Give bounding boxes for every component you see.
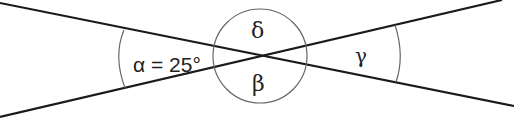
gamma-arc — [395, 25, 400, 82]
gamma-label: γ — [355, 44, 367, 68]
beta-label: β — [252, 71, 265, 96]
delta-label: δ — [251, 18, 264, 43]
intersecting-lines-diagram: α = 25° δ β γ — [0, 0, 514, 128]
alpha-label: α = 25° — [133, 53, 201, 76]
diagram-svg: α = 25° δ β γ — [0, 0, 514, 128]
alpha-arc — [119, 30, 125, 88]
